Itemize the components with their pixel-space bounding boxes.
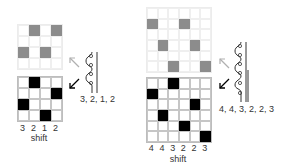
shift-value: 3 bbox=[167, 143, 178, 153]
grid-cell bbox=[18, 36, 29, 47]
filled-cell bbox=[158, 40, 169, 51]
grid-cell bbox=[168, 110, 179, 121]
left-arrow-up-icon bbox=[68, 56, 80, 68]
grid-cell bbox=[147, 110, 158, 121]
grid-cell bbox=[51, 58, 62, 69]
shift-value: 4 bbox=[157, 143, 168, 153]
grid-cell bbox=[158, 19, 169, 30]
grid-cell bbox=[29, 36, 40, 47]
grid-cell bbox=[200, 78, 211, 89]
left-shift-label: shift bbox=[17, 133, 61, 143]
grid-cell bbox=[190, 89, 201, 100]
grid-cell bbox=[168, 40, 179, 51]
grid-cell bbox=[158, 29, 169, 40]
left-coil-icon bbox=[84, 52, 106, 94]
right-arrow-down-icon bbox=[218, 78, 230, 90]
grid-cell bbox=[168, 89, 179, 100]
filled-cell bbox=[18, 47, 29, 58]
grid-cell bbox=[29, 58, 40, 69]
left-top-grid bbox=[17, 24, 63, 70]
grid-cell bbox=[179, 40, 190, 51]
grid-cell bbox=[18, 77, 29, 88]
grid-cell bbox=[158, 61, 169, 72]
shift-value: 2 bbox=[28, 123, 39, 133]
filled-cell bbox=[29, 25, 40, 36]
grid-cell bbox=[168, 121, 179, 132]
grid-cell bbox=[158, 89, 169, 100]
grid-cell bbox=[18, 25, 29, 36]
grid-cell bbox=[168, 131, 179, 142]
grid-cell bbox=[18, 88, 29, 99]
filled-cell bbox=[168, 61, 179, 72]
filled-cell bbox=[147, 89, 158, 100]
grid-cell bbox=[40, 99, 51, 110]
grid-cell bbox=[200, 110, 211, 121]
grid-cell bbox=[179, 51, 190, 62]
grid-cell bbox=[18, 58, 29, 69]
grid-cell bbox=[168, 19, 179, 30]
grid-cell bbox=[158, 78, 169, 89]
shift-value: 4 bbox=[146, 143, 157, 153]
grid-cell bbox=[158, 8, 169, 19]
grid-cell bbox=[179, 110, 190, 121]
shift-value: 2 bbox=[178, 143, 189, 153]
filled-cell bbox=[29, 77, 40, 88]
grid-cell bbox=[168, 29, 179, 40]
grid-cell bbox=[168, 51, 179, 62]
right-arrow-up-icon bbox=[218, 57, 230, 69]
right-sequence: 4, 4, 3, 2, 2, 3 bbox=[219, 104, 274, 114]
grid-cell bbox=[29, 47, 40, 58]
grid-cell bbox=[190, 61, 201, 72]
grid-cell bbox=[40, 25, 51, 36]
grid-cell bbox=[51, 36, 62, 47]
grid-cell bbox=[29, 110, 40, 121]
grid-cell bbox=[190, 8, 201, 19]
grid-cell bbox=[200, 40, 211, 51]
filled-cell bbox=[40, 110, 51, 121]
grid-cell bbox=[147, 99, 158, 110]
grid-cell bbox=[200, 51, 211, 62]
grid-cell bbox=[29, 99, 40, 110]
grid-cell bbox=[179, 78, 190, 89]
grid-cell bbox=[179, 29, 190, 40]
grid-cell bbox=[40, 77, 51, 88]
grid-cell bbox=[147, 51, 158, 62]
grid-cell bbox=[190, 110, 201, 121]
filled-cell bbox=[168, 78, 179, 89]
grid-cell bbox=[51, 47, 62, 58]
grid-cell bbox=[190, 78, 201, 89]
grid-cell bbox=[40, 36, 51, 47]
filled-cell bbox=[147, 19, 158, 30]
right-coil-icon bbox=[233, 42, 255, 102]
grid-cell bbox=[29, 88, 40, 99]
grid-cell bbox=[200, 121, 211, 132]
grid-cell bbox=[51, 77, 62, 88]
grid-cell bbox=[18, 110, 29, 121]
grid-cell bbox=[200, 8, 211, 19]
shift-value: 2 bbox=[50, 123, 61, 133]
right-bottom-grid bbox=[146, 77, 212, 143]
grid-cell bbox=[40, 58, 51, 69]
grid-cell bbox=[147, 40, 158, 51]
grid-cell bbox=[158, 131, 169, 142]
grid-cell bbox=[200, 19, 211, 30]
filled-cell bbox=[40, 47, 51, 58]
right-top-grid bbox=[146, 7, 212, 73]
grid-cell bbox=[51, 110, 62, 121]
grid-cell bbox=[200, 99, 211, 110]
grid-cell bbox=[190, 121, 201, 132]
grid-cell bbox=[179, 131, 190, 142]
grid-cell bbox=[147, 121, 158, 132]
left-bottom-grid bbox=[17, 76, 63, 122]
right-shift-values: 443223 bbox=[146, 143, 210, 153]
grid-cell bbox=[40, 88, 51, 99]
shift-value: 3 bbox=[17, 123, 28, 133]
grid-cell bbox=[190, 51, 201, 62]
grid-cell bbox=[179, 61, 190, 72]
left-sequence: 3, 2, 1, 2 bbox=[80, 94, 115, 104]
filled-cell bbox=[51, 25, 62, 36]
left-arrow-down-icon bbox=[68, 78, 80, 90]
left-shift-values: 3212 bbox=[17, 123, 61, 133]
grid-cell bbox=[147, 29, 158, 40]
filled-cell bbox=[179, 121, 190, 132]
